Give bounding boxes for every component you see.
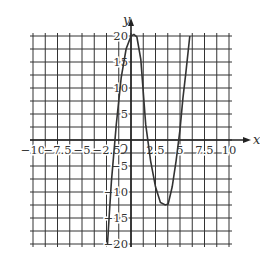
cubic-function-graph: xyO −10−7.5−5−2.52.557.5102015105−5−10−1…	[0, 0, 260, 261]
x-tick-label: 7.5	[195, 143, 213, 157]
x-tick-label: −2.5	[93, 143, 121, 157]
y-axis-label: y	[122, 12, 131, 27]
x-tick-label: 10	[222, 143, 237, 157]
axes: xyO	[30, 12, 260, 247]
x-axis-arrow-icon	[243, 137, 251, 143]
x-tick-label: −10	[21, 143, 45, 157]
y-tick-label: 5	[121, 107, 128, 121]
y-tick-label: −10	[104, 185, 128, 199]
x-tick-label: −7.5	[44, 143, 72, 157]
x-tick-label: −5	[74, 143, 91, 157]
x-axis-label: x	[253, 132, 260, 147]
y-tick-label: 15	[113, 55, 128, 69]
y-tick-label: −15	[104, 211, 128, 225]
y-tick-label: 20	[113, 29, 128, 43]
